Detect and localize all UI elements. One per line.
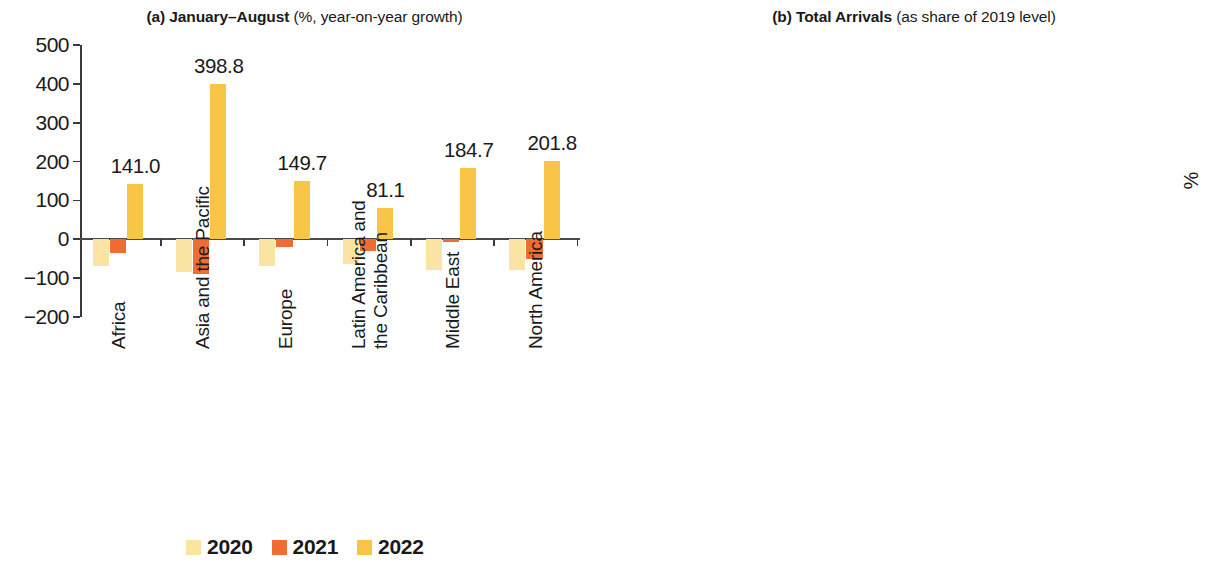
- x-axis-tick: [410, 239, 412, 246]
- y-axis-tick-label: 500: [0, 33, 69, 57]
- bar-2021: [443, 239, 459, 242]
- y-axis-tick-label: 0: [0, 227, 69, 251]
- x-axis-category-label: Latin America andthe Caribbean: [348, 200, 392, 349]
- x-axis-category-line: North America: [525, 231, 547, 349]
- x-axis-category-label: Asia and the Pacific: [192, 186, 214, 349]
- bar-2022: [127, 184, 143, 239]
- x-axis-category-line: Latin America and: [348, 200, 370, 349]
- y-axis-line: [80, 45, 82, 317]
- x-axis-category-label: North America: [525, 231, 547, 349]
- legend-swatch-icon: [186, 540, 201, 555]
- y-axis-tick-label: 300: [0, 111, 69, 135]
- bar-2020: [176, 239, 192, 272]
- panel-a-title-strong: (a) January–August: [146, 8, 293, 25]
- bar-2020: [259, 239, 275, 266]
- x-axis-tick: [160, 239, 162, 246]
- data-value-label: 184.7: [444, 138, 493, 162]
- legend-label: 2020: [207, 535, 253, 559]
- x-axis-category-line: Africa: [108, 302, 130, 349]
- y-axis-tick-label: 100: [0, 188, 69, 212]
- bar-2022: [544, 161, 560, 239]
- panel-a-title: (a) January–August (%, year-on-year grow…: [0, 8, 609, 26]
- y-axis-tick: [73, 277, 80, 279]
- legend-swatch-icon: [357, 540, 372, 555]
- x-axis-tick: [243, 239, 245, 246]
- legend-a-item-2021[interactable]: 2021: [272, 535, 339, 559]
- panel-a-title-light: (%, year-on-year growth): [294, 8, 463, 25]
- legend-swatch-icon: [272, 540, 287, 555]
- y-axis-tick: [73, 316, 80, 318]
- x-axis-category-line: the Caribbean: [370, 200, 392, 349]
- y-axis-tick-label: −200: [0, 305, 69, 329]
- data-value-label: 149.7: [277, 151, 326, 175]
- x-axis-category-label: Middle East: [442, 252, 464, 349]
- y-axis-tick-label: 400: [0, 72, 69, 96]
- panel-b-title: (b) Total Arrivals (as share of 2019 lev…: [609, 8, 1219, 26]
- y-axis-tick: [73, 83, 80, 85]
- x-axis-category-line: Middle East: [442, 252, 464, 349]
- x-axis-tick: [577, 239, 579, 246]
- data-value-label: 398.8: [194, 54, 243, 78]
- bar-2020: [509, 239, 525, 269]
- y-axis-tick: [73, 238, 80, 240]
- legend-label: 2022: [378, 535, 424, 559]
- legend-label: 2021: [293, 535, 339, 559]
- x-axis-category-line: Europe: [275, 289, 297, 349]
- bar-2020: [426, 239, 442, 269]
- bar-group: [259, 45, 310, 317]
- bar-2021: [110, 239, 126, 253]
- x-axis-category-label: Europe: [275, 289, 297, 349]
- y-axis-tick: [73, 122, 80, 124]
- baseline: [80, 238, 580, 240]
- x-axis-tick: [327, 239, 329, 246]
- legend-a-item-2022[interactable]: 2022: [357, 535, 424, 559]
- bar-group: [93, 45, 144, 317]
- panel-b-title-strong: (b) Total Arrivals: [772, 8, 896, 25]
- panel-a-plot-area: −200−1000100200300400500141.0Africa398.8…: [80, 45, 580, 317]
- panel-b: (b) Total Arrivals (as share of 2019 lev…: [609, 0, 1219, 574]
- bar-2022: [460, 168, 476, 240]
- panel-b-title-light: (as share of 2019 level): [896, 8, 1056, 25]
- bar-2022: [294, 181, 310, 239]
- y-axis-tick: [73, 44, 80, 46]
- y-axis-tick: [73, 200, 80, 202]
- x-axis-tick: [493, 239, 495, 246]
- x-axis-category-label: Africa: [108, 302, 130, 349]
- legend-a-item-2020[interactable]: 2020: [186, 535, 253, 559]
- figure-container: (a) January–August (%, year-on-year grow…: [0, 0, 1219, 574]
- y-axis-unit-label: %: [1180, 172, 1203, 190]
- data-value-label: 201.8: [527, 131, 576, 155]
- panel-a: (a) January–August (%, year-on-year grow…: [0, 0, 609, 574]
- y-axis-tick-label: 200: [0, 150, 69, 174]
- bar-2020: [93, 239, 109, 265]
- bar-2021: [276, 239, 292, 247]
- data-value-label: 141.0: [111, 154, 160, 178]
- y-axis-tick: [73, 161, 80, 163]
- panel-a-legend: 202020212022: [186, 535, 434, 559]
- x-axis-category-line: Asia and the Pacific: [192, 186, 214, 349]
- y-axis-tick-label: −100: [0, 266, 69, 290]
- data-value-label: 81.1: [366, 178, 404, 202]
